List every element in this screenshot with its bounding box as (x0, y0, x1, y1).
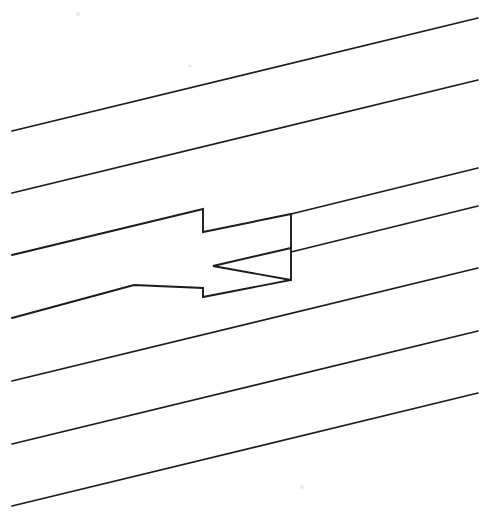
line-drawing-svg (0, 0, 489, 515)
paper-background (0, 0, 489, 515)
figure-canvas (0, 0, 489, 515)
paper-speck (76, 12, 80, 16)
paper-speck (300, 485, 304, 489)
paper-speck (188, 64, 191, 67)
